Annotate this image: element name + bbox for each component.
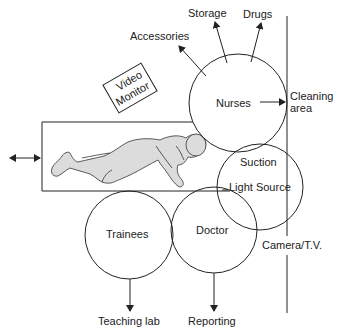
arrow-to-accessories bbox=[179, 46, 206, 76]
zone-nurses: Nurses bbox=[189, 54, 287, 152]
reporting-label: Reporting bbox=[188, 315, 236, 327]
storage-label: Storage bbox=[188, 7, 227, 19]
accessories-label: Accessories bbox=[130, 30, 190, 42]
cleaning-area-label-line2: area bbox=[290, 102, 313, 114]
zone-doctor: Doctor bbox=[171, 187, 257, 273]
camera-tv-label: Camera/T.V. bbox=[262, 239, 322, 251]
suction-label: Suction bbox=[240, 156, 277, 168]
zone-suction-light-source: Suction Light Source bbox=[217, 144, 303, 230]
nurses-label: Nurses bbox=[216, 97, 251, 109]
light-source-label: Light Source bbox=[229, 181, 291, 193]
doctor-label: Doctor bbox=[196, 224, 229, 236]
trainees-label: Trainees bbox=[106, 228, 149, 240]
cleaning-area-label-line1: Cleaning bbox=[290, 90, 333, 102]
zone-trainees: Trainees bbox=[85, 191, 173, 279]
patient-figure bbox=[51, 134, 206, 187]
arrow-to-drugs bbox=[251, 23, 261, 62]
endoscopy-room-diagram: Nurses Suction Light Source Doctor Train… bbox=[0, 0, 343, 333]
teaching-lab-label: Teaching lab bbox=[98, 315, 160, 327]
drugs-label: Drugs bbox=[243, 8, 273, 20]
video-monitor: Video Monitor bbox=[103, 63, 157, 113]
